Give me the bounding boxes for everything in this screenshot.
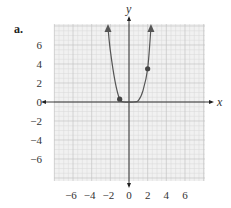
x-tick-label: 4 <box>164 189 170 201</box>
y-axis-top-arrow-icon <box>127 16 131 21</box>
y-tick-label: −6 <box>30 153 42 165</box>
chart-figure: x y −6−4−20246 6420−2−4−6 a. <box>0 0 231 208</box>
y-tick-labels: 6420−2−4−6 <box>30 39 42 165</box>
y-axis-bottom-arrow-icon <box>127 183 131 188</box>
x-axis-right-arrow-icon <box>209 100 214 104</box>
x-tick-label: −6 <box>65 189 77 201</box>
x-tick-label: −2 <box>102 189 114 201</box>
y-tick-label: 2 <box>37 77 43 89</box>
x-tick-label: 6 <box>182 189 188 201</box>
y-tick-label: −4 <box>30 134 42 146</box>
part-label: a. <box>14 22 23 36</box>
y-tick-label: 4 <box>37 58 43 70</box>
y-tick-label: −2 <box>30 115 42 127</box>
x-tick-label: 0 <box>126 189 132 201</box>
x-tick-label: −4 <box>84 189 96 201</box>
x-axis-label: x <box>216 95 223 109</box>
y-axis-label: y <box>125 2 132 16</box>
y-tick-label: 0 <box>37 96 43 108</box>
data-point <box>117 97 122 102</box>
x-tick-label: 2 <box>145 189 151 201</box>
y-tick-label: 6 <box>37 39 43 51</box>
data-point <box>145 66 150 71</box>
x-tick-labels: −6−4−20246 <box>65 189 188 201</box>
